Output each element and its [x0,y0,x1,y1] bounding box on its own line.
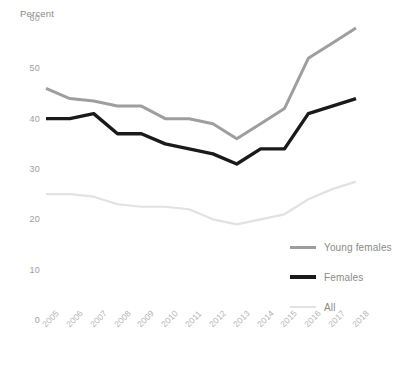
legend-item-label: Females [324,272,363,283]
legend-swatch-icon [290,306,316,308]
series-line [46,28,356,139]
legend-item[interactable]: Young females [290,232,413,262]
legend-swatch-icon [290,275,316,279]
y-axis-tick-label: 30 [12,164,40,174]
legend: Young femalesFemalesAll [290,232,413,322]
y-axis-tick-label: 20 [12,214,40,224]
line-chart: Percent 0102030405060 200520062007200820… [0,0,413,373]
series-line [46,182,356,225]
x-axis: 2005200620072008200920102011201220132014… [0,318,413,368]
series-line [46,99,356,164]
legend-item[interactable]: Females [290,262,413,292]
legend-item-label: All [324,302,336,313]
legend-item[interactable]: All [290,292,413,322]
y-axis-tick-label: 40 [12,114,40,124]
y-axis-tick-label: 60 [12,13,40,23]
legend-item-label: Young females [324,242,392,253]
y-axis-tick-label: 50 [12,63,40,73]
legend-swatch-icon [290,246,316,249]
y-axis-tick-label: 10 [12,265,40,275]
